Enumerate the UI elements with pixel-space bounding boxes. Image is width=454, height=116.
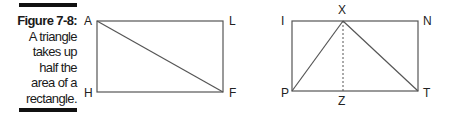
label-x: X: [338, 3, 346, 17]
label-f: F: [229, 86, 236, 100]
label-p: P: [281, 86, 289, 100]
label-l: L: [229, 14, 236, 28]
rectangle-iptn-figure: I X N P Z T: [281, 3, 432, 108]
side-xt: [343, 21, 418, 91]
side-px: [292, 21, 343, 91]
label-n: N: [423, 14, 432, 28]
label-h: H: [84, 86, 93, 100]
label-t: T: [423, 86, 431, 100]
diagonal-af: [97, 21, 223, 92]
label-i: I: [281, 14, 284, 28]
label-a: A: [84, 14, 92, 28]
label-z: Z: [338, 94, 345, 108]
geometry-diagrams: A L H F I X N P Z T: [0, 0, 454, 116]
rectangle-ahfl-figure: A L H F: [84, 14, 236, 100]
